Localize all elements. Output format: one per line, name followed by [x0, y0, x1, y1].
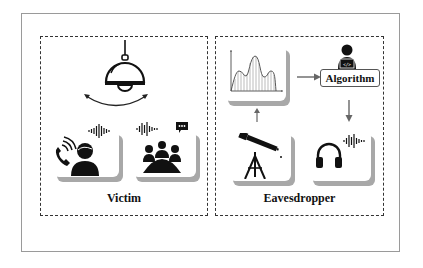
developer-laptop-icon: </> — [336, 44, 358, 69]
waveform-chart-card — [224, 45, 286, 101]
eavesdropper-label: Eavesdropper — [216, 191, 383, 206]
meeting-group-icon — [142, 140, 182, 174]
victim-label: Victim — [41, 191, 207, 206]
arrow-right-icon — [297, 73, 321, 81]
headphones-icon — [315, 141, 343, 169]
meeting-card — [132, 130, 196, 177]
sound-wave-icon — [343, 134, 365, 148]
telescope-card — [229, 131, 291, 181]
telescope-icon — [235, 133, 285, 179]
sound-wave-icon — [88, 124, 112, 138]
svg-text:</>: </> — [343, 62, 351, 67]
sound-wave-icon — [136, 122, 160, 136]
chat-bubble-icon — [176, 122, 188, 134]
arrow-down-icon — [345, 100, 353, 122]
swing-arrow-icon — [83, 93, 149, 111]
algorithm-box: Algorithm — [320, 69, 380, 87]
phone-call-person-icon — [53, 136, 103, 176]
hanging-lamp-icon — [101, 40, 149, 96]
arrow-up-icon — [253, 108, 261, 122]
signal-waveform-chart-icon — [228, 49, 284, 95]
